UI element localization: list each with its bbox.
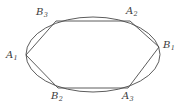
vertex-letter: B	[36, 6, 43, 17]
vertex-label-a3: A3	[122, 91, 133, 101]
vertex-subscript: 3	[130, 95, 134, 103]
vertex-subscript: 2	[134, 10, 138, 18]
vertex-label-a2: A2	[126, 6, 137, 16]
vertex-letter: A	[122, 90, 129, 101]
vertex-subscript: 1	[14, 54, 18, 62]
vertex-letter: B	[163, 39, 170, 50]
inscribed-hexagon	[26, 21, 159, 88]
vertex-letter: A	[6, 49, 13, 60]
vertex-letter: B	[51, 90, 58, 101]
vertex-subscript: 3	[44, 11, 48, 19]
vertex-label-b3: B3	[36, 7, 48, 17]
vertex-letter: A	[126, 5, 133, 16]
vertex-subscript: 1	[171, 44, 175, 52]
vertex-label-a1: A1	[6, 50, 17, 60]
hexagon-in-ellipse-figure: A1B3A2B1A3B2	[0, 0, 183, 109]
vertex-subscript: 2	[59, 95, 63, 103]
vertex-label-b1: B1	[163, 40, 175, 50]
figure-canvas	[0, 0, 183, 109]
circumscribed-ellipse	[26, 17, 160, 92]
vertex-label-b2: B2	[51, 91, 63, 101]
